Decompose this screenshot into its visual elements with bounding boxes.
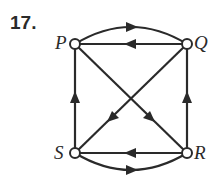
node-q — [182, 39, 192, 49]
arrow-right-icon — [126, 22, 138, 32]
node-s — [70, 148, 80, 158]
arrow-left-icon — [124, 148, 136, 158]
node-label-s: S — [54, 142, 64, 164]
directed-graph — [0, 0, 211, 176]
node-label-r: R — [194, 142, 206, 164]
node-r — [182, 148, 192, 158]
arrow-up-icon — [70, 91, 80, 103]
arrow-up-icon — [182, 91, 192, 103]
node-label-p: P — [55, 32, 67, 54]
arrow-left-icon — [124, 39, 136, 49]
node-label-q: Q — [194, 32, 208, 54]
arrow-right-icon — [126, 165, 138, 175]
node-p — [70, 39, 80, 49]
